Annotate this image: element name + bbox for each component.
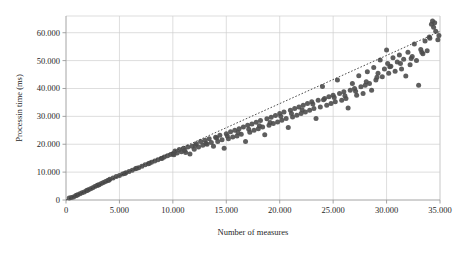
scatter-point [333, 99, 338, 104]
x-axis-title: Number of measures [218, 227, 289, 237]
scatter-point [376, 71, 381, 76]
scatter-point [425, 48, 430, 53]
scatter-point [311, 106, 316, 111]
scatter-points [67, 19, 442, 201]
y-tick-label: 40.000 [37, 83, 60, 93]
scatter-point [350, 81, 355, 86]
scatter-point [405, 50, 410, 55]
scatter-point [243, 139, 248, 144]
scatter-point [122, 171, 127, 176]
scatter-point [307, 108, 312, 113]
y-tick-label: 60.000 [37, 28, 60, 38]
scatter-point [268, 120, 273, 125]
scatter-point [284, 116, 289, 121]
scatter-point [96, 182, 101, 187]
scatter-point [203, 141, 208, 146]
chart-canvas: 05.00010.00015.00020.00025.00030.00035.0… [0, 0, 466, 253]
x-axis-ticks [66, 200, 440, 204]
scatter-point [278, 114, 283, 119]
scatter-point [236, 130, 241, 135]
scatter-point [332, 95, 337, 100]
scatter-point [365, 69, 370, 74]
scatter-point [371, 65, 376, 70]
scatter-point [211, 144, 216, 149]
scatter-point [292, 106, 297, 111]
x-axis-tick-labels: 05.00010.00015.00020.00025.00030.00035.0… [64, 205, 452, 215]
scatter-point [329, 101, 334, 106]
scatter-point [364, 79, 369, 84]
scatter-point [382, 66, 387, 71]
scatter-point [386, 71, 391, 76]
scatter-point [171, 152, 176, 157]
trend-line [66, 31, 440, 200]
scatter-point [275, 119, 280, 124]
x-tick-label: 35.000 [428, 205, 451, 215]
scatter-point [387, 64, 392, 69]
x-tick-label: 10.000 [161, 205, 184, 215]
scatter-point [220, 137, 225, 142]
scatter-point [182, 148, 187, 153]
scatter-point [390, 55, 395, 60]
scatter-point [416, 83, 421, 88]
scatter-point [369, 88, 374, 93]
scatter-point [305, 101, 310, 106]
x-tick-label: 25.000 [321, 205, 344, 215]
scatter-point [324, 103, 329, 108]
scatter-point [134, 166, 139, 171]
y-tick-label: 10.000 [37, 167, 60, 177]
scatter-point [353, 89, 358, 94]
scatter-point [358, 84, 363, 89]
scatter-point [380, 74, 385, 79]
y-tick-label: 0 [56, 195, 60, 205]
scatter-point [187, 152, 192, 157]
scatter-point [321, 97, 326, 102]
x-tick-label: 15.000 [215, 205, 238, 215]
scatter-point [246, 127, 251, 132]
scatter-point [310, 102, 315, 107]
scatter-point [258, 118, 263, 123]
scatter-point [412, 41, 417, 46]
scatter-point [432, 20, 437, 25]
scatter-point [281, 109, 286, 114]
scatter-point [393, 69, 398, 74]
scatter-point [346, 106, 351, 111]
scatter-point [85, 188, 90, 193]
y-axis-title: Processin time (ms) [14, 74, 24, 142]
scatter-point [409, 56, 414, 61]
scatter-point [289, 111, 294, 116]
scatter-point [419, 50, 424, 55]
scatter-point [361, 91, 366, 96]
scatter-point [342, 93, 347, 98]
scatter-point [401, 57, 406, 62]
scatter-point [252, 128, 257, 133]
scatter-point [230, 134, 235, 139]
scatter-point [249, 121, 254, 126]
scatter-point [408, 62, 413, 67]
scatter-point [399, 66, 404, 71]
x-tick-label: 20.000 [268, 205, 291, 215]
scatter-point [397, 53, 402, 58]
scatter-point [398, 61, 403, 66]
scatter-point [273, 113, 278, 118]
scatter-point [337, 91, 342, 96]
scatter-point [225, 133, 230, 138]
x-tick-label: 0 [64, 205, 68, 215]
scatter-point [214, 136, 219, 141]
scatter-point [193, 143, 198, 148]
x-tick-label: 30.000 [375, 205, 398, 215]
scatter-point [262, 132, 267, 137]
scatter-point [339, 98, 344, 103]
scatter-point [286, 125, 291, 130]
scatter-point [257, 123, 262, 128]
scatter-point [435, 37, 440, 42]
scatter-point [384, 48, 389, 53]
y-axis-ticks [63, 33, 67, 200]
scatter-point [356, 73, 361, 78]
y-tick-label: 20.000 [37, 139, 60, 149]
scatter-point [326, 94, 331, 99]
scatter-point [318, 104, 323, 109]
scatter-point [222, 146, 227, 151]
scatter-point [436, 33, 441, 38]
scatter-point [316, 98, 321, 103]
y-axis-tick-labels: 010.00020.00030.00040.00050.00060.000 [37, 28, 60, 205]
